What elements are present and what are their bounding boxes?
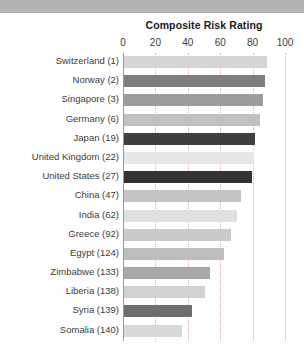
bar-row: Liberia (138) — [0, 283, 304, 302]
x-axis-tick-labels: 020406080100 — [0, 37, 304, 51]
bar-row: Somalia (140) — [0, 322, 304, 341]
bar — [124, 325, 182, 337]
bar-row: Egypt (124) — [0, 245, 304, 264]
bar-row: Switzerland (1) — [0, 53, 304, 72]
bar-row: United Kingdom (22) — [0, 149, 304, 168]
chart-title: Composite Risk Rating — [123, 19, 285, 31]
x-tick-label: 80 — [247, 37, 258, 48]
x-tick-label: 0 — [120, 37, 126, 48]
bar — [124, 94, 263, 106]
plot-area: Switzerland (1)Norway (2)Singapore (3)Ge… — [0, 53, 304, 343]
bar-row: Japan (19) — [0, 130, 304, 149]
category-label: Germany (6) — [66, 113, 119, 124]
x-tick-label: 20 — [150, 37, 161, 48]
bar-rows: Switzerland (1)Norway (2)Singapore (3)Ge… — [0, 53, 304, 341]
bar — [124, 56, 267, 68]
bar — [124, 171, 252, 183]
x-tick-label: 40 — [182, 37, 193, 48]
bar-row: Syria (139) — [0, 302, 304, 321]
bar-row: China (47) — [0, 187, 304, 206]
bar — [124, 248, 224, 260]
category-label: Syria (139) — [73, 304, 119, 315]
bar-row: India (62) — [0, 207, 304, 226]
bar — [124, 305, 192, 317]
bar-row: Greece (92) — [0, 226, 304, 245]
category-label: Zimbabwe (133) — [50, 266, 119, 277]
category-label: India (62) — [79, 209, 119, 220]
bar — [124, 267, 210, 279]
bar-row: Norway (2) — [0, 72, 304, 91]
bar — [124, 210, 237, 222]
bar — [124, 190, 241, 202]
category-label: Switzerland (1) — [56, 55, 119, 66]
bar — [124, 133, 255, 145]
category-label: Egypt (124) — [70, 247, 119, 258]
category-label: United States (27) — [42, 170, 119, 181]
bar — [124, 114, 260, 126]
bar — [124, 229, 231, 241]
category-label: Liberia (138) — [66, 285, 119, 296]
category-label: Greece (92) — [68, 228, 119, 239]
bar — [124, 286, 205, 298]
bar-row: Zimbabwe (133) — [0, 264, 304, 283]
category-label: Somalia (140) — [60, 324, 119, 335]
x-tick-label: 60 — [215, 37, 226, 48]
bar — [124, 75, 265, 87]
category-label: China (47) — [75, 189, 119, 200]
composite-risk-rating-chart: Composite Risk Rating 020406080100 Switz… — [0, 13, 304, 352]
bar — [124, 152, 254, 164]
bar-row: United States (27) — [0, 168, 304, 187]
category-label: Japan (19) — [74, 132, 119, 143]
x-tick-label: 100 — [277, 37, 294, 48]
bar-row: Singapore (3) — [0, 91, 304, 110]
category-label: Singapore (3) — [61, 93, 119, 104]
category-label: Norway (2) — [73, 74, 119, 85]
category-label: United Kingdom (22) — [32, 151, 119, 162]
bar-row: Germany (6) — [0, 111, 304, 130]
decorative-header-band — [0, 0, 304, 13]
